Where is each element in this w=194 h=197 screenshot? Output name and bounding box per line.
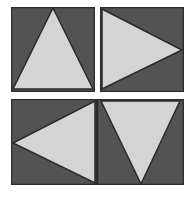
panel-bottom-right-canvas [97,99,184,185]
figure-root [0,0,194,197]
panel-top-left-canvas [11,7,95,92]
panel-bottom-left-canvas [11,99,97,185]
panel-top-right-canvas [100,7,184,92]
panel-bottom-right [97,99,184,185]
panel-top-left [11,7,95,92]
panel-top-right [100,7,184,92]
panel-bottom-left [11,99,97,185]
